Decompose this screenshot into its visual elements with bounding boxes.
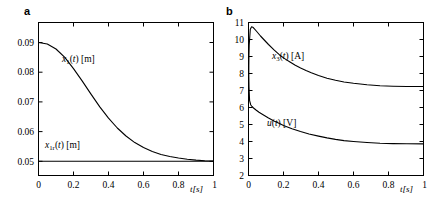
panel-b: b — [222, 0, 443, 203]
panel-b-y-ticks-right — [420, 23, 424, 176]
panel-a-xtick-5: 1 — [212, 180, 217, 190]
panel-b-ytick-6: 8 — [239, 69, 244, 79]
panel-b-xtick-0: 0 — [246, 180, 251, 190]
panel-b-xtick-1: 0.2 — [278, 180, 290, 190]
panel-a-plot: 0.05 0.06 0.07 0.08 0.09 0 0.2 0.4 0.6 0… — [0, 0, 221, 203]
panel-a-axes-frame — [39, 23, 214, 176]
panel-b-x-ticks-top — [284, 23, 389, 27]
panel-a-curve-label-x1r: x1r(t) [m] — [44, 140, 80, 151]
panel-a-ytick-3: 0.08 — [17, 67, 34, 77]
panel-b-ytick-7: 9 — [239, 52, 244, 62]
panel-b-plot: 2 3 4 5 6 7 8 9 10 11 0 0.2 0.4 0.6 0.8 … — [222, 0, 443, 203]
panel-a-ytick-1: 0.06 — [17, 127, 34, 137]
panel-b-ytick-2: 4 — [239, 137, 244, 147]
panel-a-xtick-1: 0.2 — [68, 180, 80, 190]
panel-b-curve-label-x3: x3(t) [A] — [271, 51, 304, 62]
panel-a-xtick-0: 0 — [36, 180, 41, 190]
panel-b-xtick-4: 0.8 — [383, 180, 395, 190]
panel-b-axes-frame — [249, 23, 424, 176]
panel-b-ytick-1: 3 — [239, 154, 244, 164]
panel-b-xtick-3: 0.6 — [348, 180, 360, 190]
panel-b-curve-label-u: u(t) [V] — [267, 118, 296, 129]
panel-b-xtick-2: 0.4 — [313, 180, 325, 190]
panel-a-curve-label-x1: x1(t) [m] — [61, 54, 95, 65]
panel-a-ytick-2: 0.07 — [17, 97, 34, 107]
panel-b-xlabel: t[s] — [400, 184, 414, 194]
panel-a-y-ticks — [39, 43, 43, 162]
panel-b-xtick-5: 1 — [422, 180, 427, 190]
panel-a-y-ticks-right — [210, 43, 214, 162]
panel-a-xtick-3: 0.6 — [138, 180, 150, 190]
panel-a-xtick-4: 0.8 — [173, 180, 185, 190]
panel-a-x-ticks — [39, 172, 214, 176]
panel-b-ytick-3: 5 — [239, 120, 244, 130]
figure-container: a — [0, 0, 443, 203]
panel-b-ytick-5: 7 — [239, 86, 244, 96]
panel-b-ytick-8: 10 — [235, 35, 245, 45]
panel-a-xtick-2: 0.4 — [103, 180, 115, 190]
panel-a: a — [0, 0, 221, 203]
panel-b-curve-u — [249, 57, 424, 144]
panel-a-ytick-0: 0.05 — [17, 157, 34, 167]
panel-b-ytick-4: 6 — [239, 103, 244, 113]
panel-a-x-ticks-top — [74, 23, 179, 27]
panel-b-ytick-9: 11 — [235, 18, 244, 28]
panel-a-xlabel: t[s] — [190, 184, 204, 194]
panel-b-ytick-0: 2 — [239, 171, 244, 181]
panel-b-x-ticks — [249, 172, 424, 176]
panel-a-ytick-4: 0.09 — [17, 38, 34, 48]
